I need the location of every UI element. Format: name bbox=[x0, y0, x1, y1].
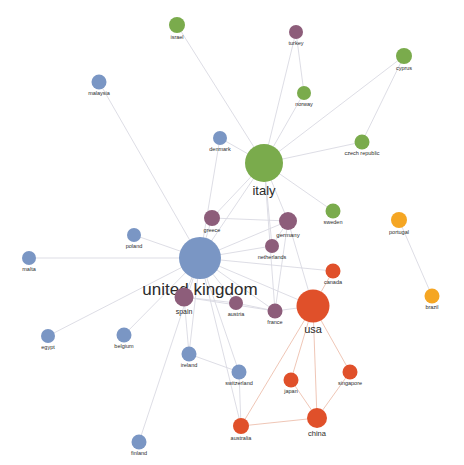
graph-node-germany[interactable] bbox=[279, 212, 297, 230]
graph-node-label-norway: norway bbox=[295, 102, 313, 108]
graph-node-label-sweden: sweden bbox=[324, 220, 343, 226]
graph-node-greece[interactable] bbox=[204, 210, 220, 226]
graph-node-malaysia[interactable] bbox=[92, 75, 107, 90]
graph-node-france[interactable] bbox=[268, 304, 283, 319]
graph-node-usa[interactable] bbox=[297, 290, 330, 323]
graph-node-label-australia: australia bbox=[231, 436, 252, 442]
graph-node-label-malaysia: malaysia bbox=[88, 91, 110, 97]
graph-node-label-malta: malta bbox=[22, 267, 35, 273]
graph-node-canada[interactable] bbox=[326, 264, 341, 279]
graph-node-finland[interactable] bbox=[132, 435, 147, 450]
graph-node-label-china: china bbox=[308, 430, 326, 438]
graph-node-label-switzerland: switzerland bbox=[225, 381, 253, 387]
graph-node-poland[interactable] bbox=[127, 228, 141, 242]
graph-node-malta[interactable] bbox=[22, 251, 36, 265]
graph-node-label-israel: israel bbox=[170, 35, 183, 41]
graph-node-label-greece: greece bbox=[204, 228, 221, 234]
graph-node-label-netherlands: netherlands bbox=[258, 255, 287, 261]
graph-node-denmark[interactable] bbox=[213, 131, 227, 145]
graph-node-label-canada: canada bbox=[324, 280, 342, 286]
graph-node-label-portugal: portugal bbox=[389, 230, 409, 236]
graph-node-label-united-kingdom: united kingdom bbox=[142, 281, 257, 298]
graph-node-italy[interactable] bbox=[245, 144, 283, 182]
graph-node-label-usa: usa bbox=[304, 324, 322, 335]
graph-node-belgium[interactable] bbox=[117, 328, 132, 343]
graph-node-sweden[interactable] bbox=[326, 204, 341, 219]
graph-node-czech-republic[interactable] bbox=[355, 135, 370, 150]
graph-node-label-germany: germany bbox=[276, 232, 299, 238]
graph-node-turkey[interactable] bbox=[289, 25, 303, 39]
graph-node-norway[interactable] bbox=[297, 86, 311, 100]
network-graph-canvas: israelturkeycyprusmalaysianorwaydenmarkc… bbox=[0, 0, 464, 465]
graph-node-label-czech-republic: czech republic bbox=[344, 151, 379, 157]
graph-node-egypt[interactable] bbox=[41, 329, 55, 343]
graph-node-ireland[interactable] bbox=[182, 347, 197, 362]
graph-node-label-denmark: denmark bbox=[209, 147, 230, 153]
graph-node-label-italy: italy bbox=[252, 184, 275, 197]
graph-node-cyprus[interactable] bbox=[396, 48, 412, 64]
graph-node-label-austria: austria bbox=[228, 312, 245, 318]
graph-node-label-finland: finland bbox=[131, 451, 147, 457]
graph-node-china[interactable] bbox=[307, 408, 327, 428]
graph-node-label-france: france bbox=[267, 320, 282, 326]
graph-node-australia[interactable] bbox=[233, 418, 249, 434]
graph-node-united-kingdom[interactable] bbox=[179, 237, 221, 279]
graph-node-label-ireland: ireland bbox=[181, 363, 198, 369]
graph-node-israel[interactable] bbox=[169, 17, 185, 33]
node-layer: israelturkeycyprusmalaysianorwaydenmarkc… bbox=[0, 0, 464, 465]
graph-node-label-poland: poland bbox=[126, 244, 143, 250]
graph-node-label-spain: spain bbox=[176, 308, 193, 315]
graph-node-switzerland[interactable] bbox=[232, 365, 247, 380]
graph-node-spain[interactable] bbox=[175, 288, 194, 307]
graph-node-label-belgium: belgium bbox=[114, 344, 133, 350]
graph-node-label-japan: japan bbox=[284, 389, 297, 395]
graph-node-austria[interactable] bbox=[229, 296, 243, 310]
graph-node-label-egypt: egypt bbox=[41, 345, 54, 351]
graph-node-label-brazil: brazil bbox=[425, 305, 438, 311]
graph-node-label-cyprus: cyprus bbox=[396, 66, 412, 72]
graph-node-brazil[interactable] bbox=[425, 289, 440, 304]
graph-node-portugal[interactable] bbox=[391, 212, 407, 228]
graph-node-japan[interactable] bbox=[284, 373, 299, 388]
graph-node-label-turkey: turkey bbox=[289, 41, 304, 47]
graph-node-netherlands[interactable] bbox=[265, 239, 279, 253]
graph-node-label-singapore: singapore bbox=[338, 381, 362, 387]
graph-node-singapore[interactable] bbox=[343, 365, 358, 380]
